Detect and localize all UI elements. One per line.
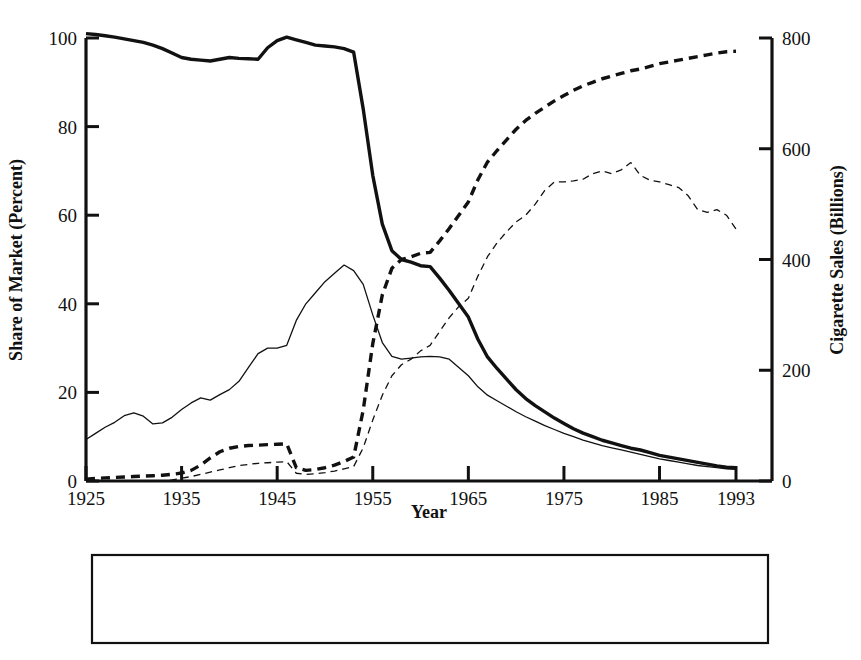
y-tick-label: 80 <box>58 117 77 138</box>
series-line-non-filter-cigarette-sales <box>86 265 736 469</box>
y-tick-label: 0 <box>68 471 78 492</box>
x-tick-label: 1935 <box>163 488 201 509</box>
y2-tick-label: 800 <box>782 28 811 49</box>
y2-tick-label: 600 <box>782 139 811 160</box>
chart-figure: 19251935194519551965197519851993 0204060… <box>0 0 861 660</box>
y-tick-label: 20 <box>58 382 77 403</box>
chart-canvas: 19251935194519551965197519851993 0204060… <box>0 0 861 660</box>
x-tick-label: 1945 <box>258 488 296 509</box>
y-axis-ticks <box>86 38 99 481</box>
y2-tick-label: 400 <box>782 250 811 271</box>
y-axis-tick-labels: 020406080100 <box>49 28 78 492</box>
x-tick-label: 1955 <box>354 488 392 509</box>
axes-group <box>86 38 772 481</box>
series-line-filter-cigarette-sales <box>86 163 736 481</box>
y-tick-label: 60 <box>58 205 77 226</box>
y2-axis-ticks <box>759 38 772 481</box>
y-axis-title: Share of Market (Percent) <box>6 159 27 361</box>
series-line-non-filter-market-share <box>86 34 736 468</box>
y2-tick-label: 0 <box>782 471 792 492</box>
data-series-group <box>86 34 736 481</box>
x-tick-label: 1985 <box>641 488 679 509</box>
series-line-filter-market-share <box>86 51 736 479</box>
x-tick-label: 1965 <box>449 488 487 509</box>
x-tick-label: 1975 <box>545 488 583 509</box>
x-tick-label: 1993 <box>717 488 755 509</box>
y2-axis-title: Cigarette Sales (Billions) <box>827 165 848 355</box>
y-tick-label: 40 <box>58 294 77 315</box>
x-axis-title: Year <box>411 502 447 522</box>
y-tick-label: 100 <box>49 28 78 49</box>
legend-border <box>92 555 768 643</box>
chart-legend <box>92 555 768 643</box>
y2-tick-label: 200 <box>782 360 811 381</box>
y2-axis-tick-labels: 0200400600800 <box>782 28 811 492</box>
